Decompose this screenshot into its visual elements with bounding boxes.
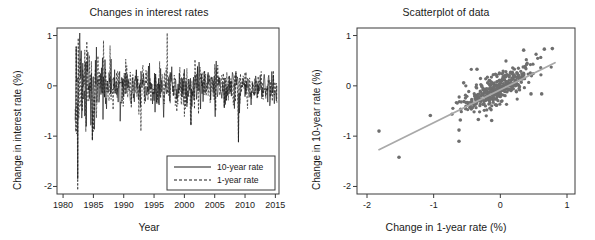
- scatter-point: [505, 103, 508, 106]
- scatter-point: [472, 110, 475, 113]
- scatter-point-outlier: [397, 155, 401, 159]
- scatter-ytick-1: 1: [333, 31, 351, 41]
- scatter-point: [470, 68, 473, 71]
- scatter-point: [495, 103, 498, 106]
- scatter-point: [456, 101, 459, 104]
- scatter-point: [525, 63, 528, 66]
- timeseries-ytick-1: 1: [34, 31, 52, 41]
- scatter-point-outlier: [529, 92, 533, 96]
- scatter-point: [466, 108, 469, 111]
- scatter-point: [499, 85, 502, 88]
- scatter-point-outlier: [462, 81, 466, 85]
- timeseries-xtick-1980: 1980: [53, 200, 73, 210]
- scatter-point-outlier: [377, 129, 381, 133]
- scatter-point: [501, 77, 504, 80]
- scatter-point: [501, 71, 504, 74]
- scatter-point: [458, 95, 461, 98]
- scatter-point: [517, 67, 520, 70]
- scatter-point: [485, 108, 488, 111]
- scatter-point: [507, 87, 510, 90]
- scatter-point: [512, 87, 515, 90]
- scatter-xtick-1: 1: [564, 200, 569, 210]
- timeseries-xtick-1990: 1990: [114, 200, 134, 210]
- scatter-point: [494, 73, 497, 76]
- legend-label-1-year-rate: 1-year rate: [217, 175, 259, 185]
- scatter-point: [534, 53, 537, 56]
- scatter-point: [505, 80, 508, 83]
- timeseries-ytick-0: 0: [34, 81, 52, 91]
- scatter-point-outlier: [457, 128, 461, 132]
- timeseries-xtick-2000: 2000: [174, 200, 194, 210]
- scatter-point: [492, 101, 495, 104]
- scatter-point-outlier: [475, 67, 479, 71]
- scatter-ytick-0: 0: [333, 81, 351, 91]
- timeseries-y-axis-label: Change in interest rate (%): [12, 70, 23, 190]
- scatter-xtick-0: 0: [498, 200, 503, 210]
- scatter-point: [523, 86, 526, 89]
- scatter-point: [493, 97, 496, 100]
- scatter-y-axis-label: Change in 10-year rate (%): [311, 69, 322, 190]
- scatter-point: [462, 100, 465, 103]
- timeseries-x-axis-label: Year: [0, 221, 298, 233]
- scatter-point: [467, 90, 470, 93]
- scatter-point: [516, 97, 519, 100]
- scatter-point: [500, 100, 503, 103]
- scatter-regression-line: [379, 63, 555, 150]
- scatter-point: [482, 102, 485, 105]
- scatter-point: [490, 75, 493, 78]
- scatter-point: [478, 110, 481, 113]
- scatter-ytick--1: -1: [333, 131, 351, 141]
- scatter-point: [503, 89, 506, 92]
- scatter-point: [495, 85, 498, 88]
- legend-label-10-year-rate: 10-year rate: [217, 162, 264, 172]
- scatter-point: [476, 93, 479, 96]
- scatter-point: [525, 58, 528, 61]
- timeseries-title: Changes in interest rates: [0, 6, 298, 18]
- scatter-point: [451, 107, 454, 110]
- scatter-point: [509, 71, 512, 74]
- scatter-point: [479, 102, 482, 105]
- scatter-point: [515, 76, 518, 79]
- scatter-point: [488, 102, 491, 105]
- timeseries-ytick--2: -2: [34, 181, 52, 191]
- scatter-frame: [357, 28, 575, 194]
- scatter-point-outlier: [522, 48, 526, 52]
- scatter-point: [470, 99, 473, 102]
- scatter-point-outlier: [543, 47, 547, 51]
- scatter-point: [508, 75, 511, 78]
- scatter-point: [499, 81, 502, 84]
- scatter-point: [487, 82, 490, 85]
- chart-panel-scatter: Scatterplot of data Change in 10-year ra…: [297, 0, 595, 240]
- figure-panel-pair: Changes in interest rates Change in inte…: [0, 0, 595, 240]
- scatter-point: [536, 57, 539, 60]
- scatter-point: [516, 83, 519, 86]
- timeseries-xtick-1985: 1985: [83, 200, 103, 210]
- scatter-point: [524, 67, 527, 70]
- scatter-point-outlier: [540, 92, 544, 96]
- scatter-point-outlier: [429, 114, 433, 118]
- scatter-point: [509, 79, 512, 82]
- scatter-xtick--1: -1: [430, 200, 438, 210]
- scatter-point: [475, 83, 478, 86]
- scatter-point: [515, 89, 518, 92]
- scatter-point: [539, 56, 542, 59]
- scatter-point: [529, 63, 532, 66]
- scatter-point: [481, 87, 484, 90]
- scatter-title: Scatterplot of data: [297, 6, 595, 18]
- scatter-point-outlier: [551, 47, 555, 51]
- scatter-point-outlier: [477, 118, 481, 122]
- chart-panel-timeseries: Changes in interest rates Change in inte…: [0, 0, 298, 240]
- scatter-point: [464, 84, 467, 87]
- scatter-point: [527, 81, 530, 84]
- timeseries-ytick--1: -1: [34, 131, 52, 141]
- scatter-point: [485, 114, 488, 117]
- scatter-point: [479, 77, 482, 80]
- scatter-point: [499, 92, 502, 95]
- scatter-point: [539, 73, 542, 76]
- scatter-point: [520, 81, 523, 84]
- scatter-point: [485, 87, 488, 90]
- scatter-point: [493, 81, 496, 84]
- scatter-point-outlier: [459, 118, 463, 122]
- scatter-point-outlier: [457, 139, 461, 143]
- scatter-x-axis-label: Change in 1-year rate (%): [297, 221, 595, 233]
